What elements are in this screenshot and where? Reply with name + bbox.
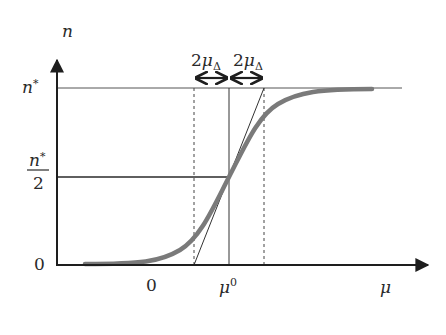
y-tick-n-star: n* bbox=[22, 77, 39, 97]
x-tick-mu0: μ0 bbox=[219, 276, 237, 297]
sigmoid-diagram: n n* n* 2 0 0 μ0 μ 2μΔ 2μΔ bbox=[0, 0, 446, 335]
y-tick-zero: 0 bbox=[34, 254, 45, 274]
x-axis-label: μ bbox=[380, 277, 391, 297]
y-tick-half-numerator: n* bbox=[29, 150, 46, 170]
right-width-label: 2μΔ bbox=[233, 50, 263, 73]
y-axis-label: n bbox=[62, 21, 73, 41]
x-tick-zero: 0 bbox=[146, 275, 157, 295]
left-width-label: 2μΔ bbox=[191, 50, 221, 73]
y-tick-half-denominator: 2 bbox=[33, 173, 44, 193]
